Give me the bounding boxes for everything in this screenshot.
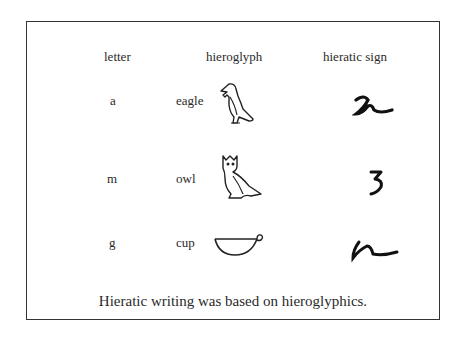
letter-g: g <box>109 235 116 251</box>
hieroglyph-name-owl: owl <box>176 171 196 187</box>
owl-hieroglyph-icon <box>221 154 265 202</box>
letter-m: m <box>107 171 117 187</box>
hieroglyph-name-eagle: eagle <box>176 93 203 109</box>
header-letter: letter <box>104 49 131 65</box>
hieratic-m-icon <box>367 168 387 196</box>
header-hieratic-sign: hieratic sign <box>323 49 387 65</box>
header-hieroglyph: hieroglyph <box>206 49 262 65</box>
hieratic-g-icon <box>349 238 401 264</box>
hieroglyph-name-cup: cup <box>176 235 195 251</box>
eagle-hieroglyph-icon <box>215 81 257 125</box>
caption: Hieratic writing was based on hieroglyph… <box>27 293 439 310</box>
hieratic-a-icon <box>352 94 398 118</box>
cup-hieroglyph-icon <box>213 233 265 257</box>
figure-frame: letter hieroglyph hieratic sign a eagle … <box>26 21 440 320</box>
letter-a: a <box>110 93 116 109</box>
